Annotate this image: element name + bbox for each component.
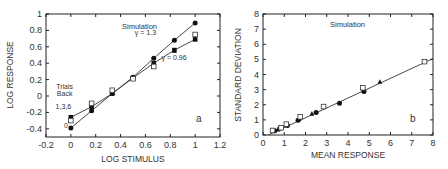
- y-axis-label-a: LOG RESPONSE: [5, 41, 15, 109]
- data-point-filled-circle: [172, 38, 177, 43]
- panel-label-a: a: [196, 113, 202, 124]
- data-point-open-square: [321, 104, 326, 109]
- data-point-open-square: [284, 122, 289, 127]
- y-tick-label: -0.4: [26, 124, 42, 134]
- y-tick-label: 1: [37, 9, 42, 19]
- annotation: γ = 1.3: [135, 29, 156, 37]
- x-tick-label: 0: [260, 138, 265, 148]
- y-tick-label: 1: [254, 115, 259, 125]
- data-point-open-square: [361, 86, 366, 91]
- y-tick-label: 5: [254, 54, 259, 64]
- y-tick-label: 0: [37, 91, 42, 101]
- x-tick-label: 6: [388, 138, 393, 148]
- x-tick-label: 0.4: [114, 140, 127, 150]
- data-point-open-square: [151, 64, 156, 69]
- y-tick-label: 6: [254, 39, 259, 49]
- data-point-open-square: [298, 115, 303, 120]
- x-tick-label: 4: [345, 138, 350, 148]
- x-tick-label: -0.2: [38, 140, 54, 150]
- figure: -0.200.20.40.60.811.2 -0.4-0.200.20.40.6…: [0, 0, 448, 169]
- data-point-filled-triangle: [310, 111, 315, 116]
- data-point-filled-circle: [89, 108, 94, 113]
- y-tick-label: 0.4: [29, 58, 42, 68]
- data-point-filled-circle: [337, 101, 342, 106]
- data-point-filled-circle: [314, 110, 319, 115]
- data-point-filled-triangle: [378, 79, 383, 84]
- x-tick-label: 8: [430, 138, 435, 148]
- x-tick-label: 1: [282, 138, 287, 148]
- x-tick-label: 1.2: [214, 140, 227, 150]
- panel-label-b: b: [410, 113, 416, 124]
- x-tick-label: 0.2: [89, 140, 102, 150]
- fit-line: [268, 59, 433, 135]
- annotation: 0: [64, 122, 68, 129]
- data-point-filled-circle: [151, 56, 156, 61]
- y-tick-label: 0.2: [29, 75, 42, 85]
- y-tick-label: -0.2: [26, 107, 42, 117]
- x-tick-label: 5: [367, 138, 372, 148]
- data-point-open-square: [193, 32, 198, 37]
- x-tick-label: 0: [68, 140, 73, 150]
- data-point-filled-circle: [193, 21, 198, 26]
- y-tick-label: 0.6: [29, 42, 42, 52]
- x-tick-label: 7: [409, 138, 414, 148]
- annotation: Back: [57, 90, 73, 97]
- y-tick-label: 3: [254, 85, 259, 95]
- x-tick-label: 0.8: [164, 140, 177, 150]
- x-axis-label-a: LOG STIMULUS: [101, 154, 165, 164]
- data-point-open-square: [131, 76, 136, 81]
- x-tick-label: 0.6: [139, 140, 152, 150]
- x-tick-label: 3: [324, 138, 329, 148]
- y-tick-label: 0: [254, 130, 259, 140]
- data-point-filled-circle: [68, 125, 73, 130]
- annotation: 1,3,6: [56, 103, 72, 110]
- panel-b: 012345678 012345678 Simulation MEAN RESP…: [233, 9, 436, 160]
- data-point-open-square: [279, 125, 284, 130]
- y-tick-label: 7: [254, 24, 259, 34]
- data-point-open-square: [69, 118, 74, 123]
- data-point-open-square: [89, 101, 94, 106]
- y-tick-label: 2: [254, 100, 259, 110]
- data-point-open-square: [270, 128, 275, 133]
- panel-a: -0.200.20.40.60.811.2 -0.4-0.200.20.40.6…: [5, 9, 226, 164]
- chart-b-title: Simulation: [330, 20, 365, 29]
- x-tick-label: 1: [193, 140, 198, 150]
- y-axis-label-b: STANDARD DEVIATION: [233, 28, 243, 122]
- y-tick-label: 8: [254, 9, 259, 19]
- plot-frame-b: [263, 14, 433, 135]
- x-axis-label-b: MEAN RESPONSE: [311, 150, 385, 160]
- y-tick-label: 0.8: [29, 25, 42, 35]
- data-point-open-square: [422, 59, 427, 64]
- y-tick-label: 4: [254, 70, 259, 80]
- annotation: γ = 0.96: [161, 54, 186, 62]
- data-point-open-square: [110, 88, 115, 93]
- x-tick-label: 2: [303, 138, 308, 148]
